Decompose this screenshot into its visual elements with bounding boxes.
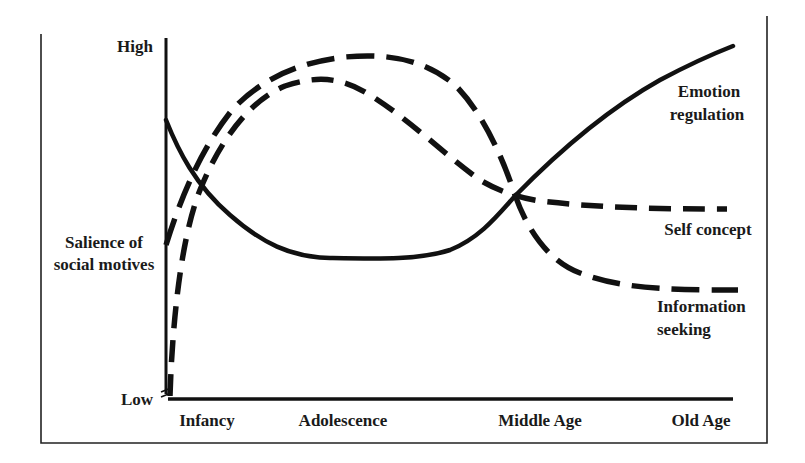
y-axis-label-line1: Salience of bbox=[65, 233, 143, 252]
y-tick-high: High bbox=[117, 37, 153, 56]
y-axis-label-line2: social motives bbox=[54, 255, 155, 274]
label-information-seeking-line1: Information bbox=[657, 297, 746, 316]
chart-figure: High Low Salience of social motives Infa… bbox=[0, 0, 805, 463]
label-self-concept: Self concept bbox=[664, 220, 752, 239]
x-tick-adolescence: Adolescence bbox=[299, 411, 388, 430]
label-emotion-regulation-line2: regulation bbox=[670, 105, 745, 124]
x-tick-middle-age: Middle Age bbox=[498, 411, 582, 430]
y-tick-low: Low bbox=[121, 390, 154, 409]
x-tick-infancy: Infancy bbox=[179, 411, 235, 430]
label-information-seeking-line2: seeking bbox=[657, 320, 711, 339]
series-information-seeking bbox=[166, 56, 738, 290]
series-self-concept bbox=[170, 79, 727, 396]
label-emotion-regulation-line1: Emotion bbox=[678, 82, 741, 101]
x-tick-old-age: Old Age bbox=[671, 411, 730, 430]
